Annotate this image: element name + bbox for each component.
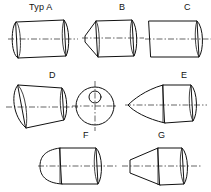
figure-typ-b: [82, 16, 144, 64]
figure-typ-d: [6, 80, 78, 136]
figure-label-c: C: [184, 2, 191, 12]
figure-label-f: F: [83, 130, 89, 140]
figure-label-e: E: [181, 70, 187, 80]
figure-typ-c: [145, 16, 211, 64]
figure-label-a: Typ A: [29, 2, 53, 12]
figure-typ-e: [125, 78, 207, 134]
figure-end-view: [70, 78, 120, 134]
figure-label-b: B: [119, 2, 125, 12]
figure-label-d: D: [49, 70, 56, 80]
figure-typ-a: [8, 16, 78, 64]
technical-drawing-sheet: Typ A B C D: [0, 0, 211, 192]
figure-label-g: G: [158, 130, 165, 140]
figure-typ-f: [38, 142, 118, 192]
figure-typ-g: [122, 142, 202, 192]
